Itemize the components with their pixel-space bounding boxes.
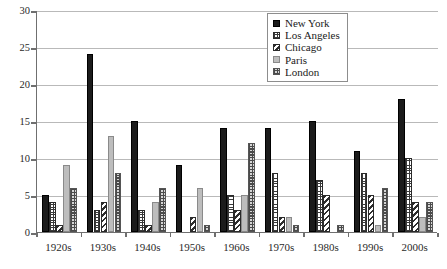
bar	[138, 210, 145, 232]
bar	[286, 217, 293, 232]
bar	[42, 195, 49, 232]
legend-label: Chicago	[285, 41, 322, 53]
bar	[87, 54, 94, 232]
bar	[108, 136, 115, 232]
bar	[412, 202, 419, 232]
legend-label: Paris	[285, 54, 307, 66]
bar-group	[349, 10, 394, 232]
x-tick-label: 1960s	[214, 241, 259, 253]
legend-swatch-icon	[273, 32, 280, 39]
x-tick-mark	[170, 233, 172, 237]
bar	[145, 225, 152, 232]
bar	[405, 158, 412, 232]
legend-swatch-icon	[273, 20, 280, 27]
bar	[190, 217, 197, 232]
legend-label: London	[285, 66, 319, 78]
bar	[265, 128, 272, 232]
bar	[279, 217, 286, 232]
x-tick-label: 1980s	[303, 241, 348, 253]
bar	[234, 210, 241, 232]
y-tick-label: 30	[4, 6, 30, 17]
x-tick-mark	[348, 233, 350, 237]
bar-group	[82, 10, 127, 232]
bar	[49, 202, 56, 232]
y-tick-label: 25	[4, 43, 30, 54]
bar	[354, 151, 361, 232]
legend-item: London	[273, 66, 340, 78]
bar	[159, 188, 166, 232]
x-tick-mark	[125, 233, 127, 237]
bar	[101, 202, 108, 232]
legend-item: Los Angeles	[273, 29, 340, 41]
bar	[241, 195, 248, 232]
bar-group	[126, 10, 171, 232]
legend-swatch-icon	[273, 56, 280, 63]
legend-item: Chicago	[273, 41, 340, 53]
legend-swatch-icon	[273, 68, 280, 75]
x-tick-mark	[392, 233, 394, 237]
bar	[115, 173, 122, 232]
plot-area	[36, 11, 437, 233]
bar	[63, 165, 70, 232]
x-tick-label: 1940s	[125, 241, 170, 253]
bar	[272, 173, 279, 232]
bar	[176, 165, 183, 232]
bar	[419, 217, 426, 232]
bar-group	[171, 10, 216, 232]
x-tick-label: 2000s	[392, 241, 437, 253]
chart-legend: New YorkLos AngelesChicagoParisLondon	[267, 13, 348, 82]
bar	[323, 195, 330, 232]
x-tick-label: 1930s	[81, 241, 126, 253]
x-tick-mark	[214, 233, 216, 237]
bar	[227, 195, 234, 232]
bar	[152, 202, 159, 232]
bar	[94, 210, 101, 232]
bar	[309, 121, 316, 232]
x-tick-mark	[437, 233, 439, 237]
x-tick-label: 1970s	[259, 241, 304, 253]
bar	[220, 128, 227, 232]
bar	[293, 225, 300, 232]
y-tick-label: 10	[4, 154, 30, 165]
legend-label: New York	[285, 17, 330, 29]
x-tick-label: 1950s	[170, 241, 215, 253]
y-tick-label: 15	[4, 117, 30, 128]
bar	[56, 225, 63, 232]
bar-group	[393, 10, 438, 232]
bar	[382, 188, 389, 232]
bar	[316, 180, 323, 232]
bar	[375, 225, 382, 232]
bar-chart: 051015202530 1920s1930s1940s1950s1960s19…	[0, 0, 447, 269]
bar	[368, 195, 375, 232]
bar	[204, 225, 211, 232]
bar-group	[37, 10, 82, 232]
bar	[131, 121, 138, 232]
x-tick-mark	[36, 233, 38, 237]
bar	[70, 188, 77, 232]
bar	[248, 143, 255, 232]
x-tick-label: 1990s	[348, 241, 393, 253]
x-tick-mark	[81, 233, 83, 237]
legend-swatch-icon	[273, 44, 280, 51]
bar-group	[215, 10, 260, 232]
bar	[398, 99, 405, 232]
bar	[197, 188, 204, 232]
y-tick-label: 20	[4, 80, 30, 91]
bar	[337, 225, 344, 232]
bar	[426, 202, 433, 232]
x-tick-mark	[303, 233, 305, 237]
bar	[361, 173, 368, 232]
legend-item: Paris	[273, 54, 340, 66]
legend-label: Los Angeles	[285, 29, 340, 41]
y-tick-label: 0	[4, 228, 30, 239]
x-tick-mark	[259, 233, 261, 237]
x-tick-label: 1920s	[36, 241, 81, 253]
legend-item: New York	[273, 17, 340, 29]
y-tick-label: 5	[4, 191, 30, 202]
